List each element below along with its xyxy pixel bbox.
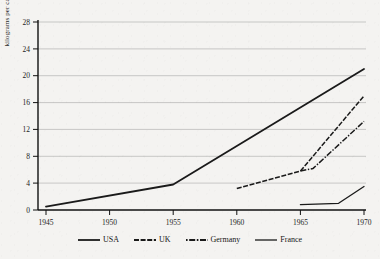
y-tick-28: 28 xyxy=(12,18,30,27)
x-tick-1950: 1950 xyxy=(93,218,127,227)
legend-label-usa: USA xyxy=(103,236,119,244)
legend-key-usa-icon xyxy=(78,236,100,244)
y-tick-4: 4 xyxy=(12,179,30,188)
series-line-germany xyxy=(300,121,364,171)
line-chart: kilograms per capita xyxy=(0,0,380,259)
series-line-france xyxy=(300,187,364,205)
y-tick-24: 24 xyxy=(12,45,30,54)
x-tick-1945: 1945 xyxy=(29,218,63,227)
y-axis-ticks xyxy=(33,22,38,210)
x-tick-1960: 1960 xyxy=(220,218,254,227)
y-axis-title: kilograms per capita xyxy=(3,0,11,72)
series-line-usa xyxy=(46,69,364,207)
chart-legend: USA UK Germany France xyxy=(0,231,380,249)
gridlines xyxy=(38,22,366,183)
y-tick-16: 16 xyxy=(12,98,30,107)
legend-item-uk: UK xyxy=(134,236,171,244)
y-tick-12: 12 xyxy=(12,125,30,134)
x-tick-1965: 1965 xyxy=(283,218,317,227)
series-line-uk xyxy=(237,96,364,189)
y-tick-0: 0 xyxy=(12,206,30,215)
x-tick-1970: 1970 xyxy=(347,218,380,227)
legend-label-uk: UK xyxy=(159,236,171,244)
x-axis-ticks xyxy=(46,210,364,215)
legend-label-germany: Germany xyxy=(211,236,241,244)
x-tick-1955: 1955 xyxy=(156,218,190,227)
legend-key-france-icon xyxy=(255,236,277,244)
y-tick-8: 8 xyxy=(12,152,30,161)
legend-label-france: France xyxy=(280,236,302,244)
legend-key-uk-icon xyxy=(134,236,156,244)
legend-item-usa: USA xyxy=(78,236,119,244)
legend-item-france: France xyxy=(255,236,302,244)
y-tick-20: 20 xyxy=(12,71,30,80)
legend-item-germany: Germany xyxy=(186,236,241,244)
legend-key-germany-icon xyxy=(186,236,208,244)
